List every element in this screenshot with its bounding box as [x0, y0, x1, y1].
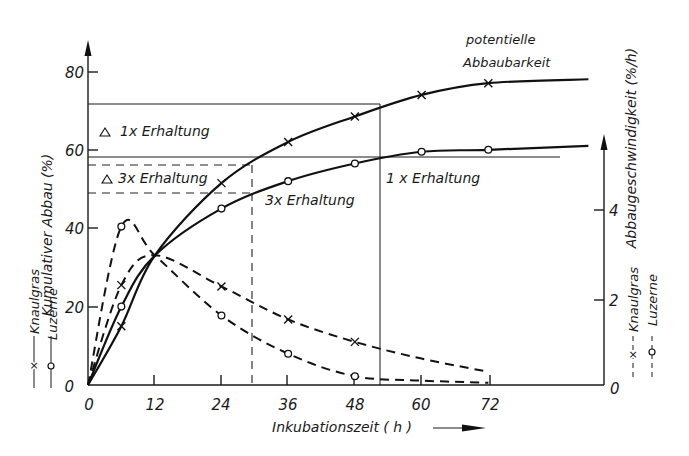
y-tick-20: 20: [65, 299, 84, 317]
circle-marker-icon: [351, 373, 358, 380]
y-right-tick-0: 0: [610, 380, 620, 398]
annotation-abbaubarkeit: Abbaubarkeit: [462, 55, 551, 70]
triangle-icon: [100, 128, 110, 136]
x-axis-arrow-icon: [462, 425, 486, 432]
y-axis-right-arrow-icon: [601, 134, 608, 150]
y-tick-60: 60: [65, 142, 84, 160]
annotation-box-1x: 1x Erhaltung: [120, 123, 210, 139]
legend-x-icon: ×: [628, 348, 637, 361]
x-tick-60: 60: [411, 396, 430, 414]
x-tick-0: 0: [84, 396, 94, 414]
circle-marker-icon: [285, 178, 292, 185]
y-right-tick-2: 2: [609, 292, 619, 310]
y-axis-right: 0 2 4 Abbaugeschwindigkeit (%/h): [594, 48, 639, 398]
cross-marker-icon: [117, 281, 125, 289]
cumulative-degradation-chart: 0 20 40 60 80 Kumulativer Abbau (%) 0 12…: [0, 0, 689, 456]
legend-left-luzerne: Luzerne: [45, 288, 60, 340]
series-line-3: [88, 220, 488, 385]
y-tick-40: 40: [65, 220, 84, 238]
cross-marker-icon: [117, 322, 125, 330]
circle-marker-icon: [218, 312, 225, 319]
annotation-potentielle: potentielle: [465, 32, 535, 47]
annotation-right-1x: 1 x Erhaltung: [386, 170, 480, 186]
cross-marker-icon: [217, 179, 225, 187]
x-tick-72: 72: [480, 396, 499, 414]
y-tick-80: 80: [65, 64, 84, 82]
legend-right: × Knaulgras Luzerne: [626, 267, 660, 380]
x-axis-label: Inkubationszeit ( h ): [272, 419, 412, 435]
y-tick-0: 0: [64, 378, 74, 396]
cross-marker-icon: [284, 138, 292, 146]
legend-right-luzerne: Luzerne: [645, 274, 660, 326]
x-tick-48: 48: [345, 396, 364, 414]
legend-right-knaulgras: Knaulgras: [626, 267, 641, 332]
cross-marker-icon: [217, 282, 225, 290]
legend-o-icon: [649, 349, 655, 355]
legend-left-knaulgras: Knaulgras: [27, 269, 42, 334]
circle-marker-icon: [118, 303, 125, 310]
y-axis-left-arrow-icon: [85, 40, 92, 56]
circle-marker-icon: [485, 146, 492, 153]
y-right-tick-4: 4: [609, 202, 619, 220]
cross-marker-icon: [284, 315, 292, 323]
y-axis-right-label: Abbaugeschwindigkeit (%/h): [623, 48, 639, 249]
x-tick-24: 24: [211, 396, 230, 414]
triangle-icon: [102, 175, 112, 183]
legend-o-icon: [48, 363, 54, 369]
circle-marker-icon: [351, 160, 358, 167]
annotation-box-3x: 3x Erhaltung: [118, 170, 208, 186]
x-axis: 0 12 24 36 48 60 72 Inkubationszeit ( h …: [84, 375, 604, 435]
annotations: potentielle Abbaubarkeit 1x Erhaltung 3x…: [100, 32, 551, 208]
circle-marker-icon: [285, 350, 292, 357]
circle-marker-icon: [118, 223, 125, 230]
x-tick-12: 12: [145, 396, 164, 414]
circle-marker-icon: [418, 148, 425, 155]
x-tick-36: 36: [278, 396, 297, 414]
circle-marker-icon: [218, 205, 225, 212]
annotation-mid-3x: 3x Erhaltung: [265, 192, 355, 208]
y-axis-left: 0 20 40 60 80 Kumulativer Abbau (%): [39, 40, 98, 396]
legend-x-icon: ×: [29, 359, 38, 372]
